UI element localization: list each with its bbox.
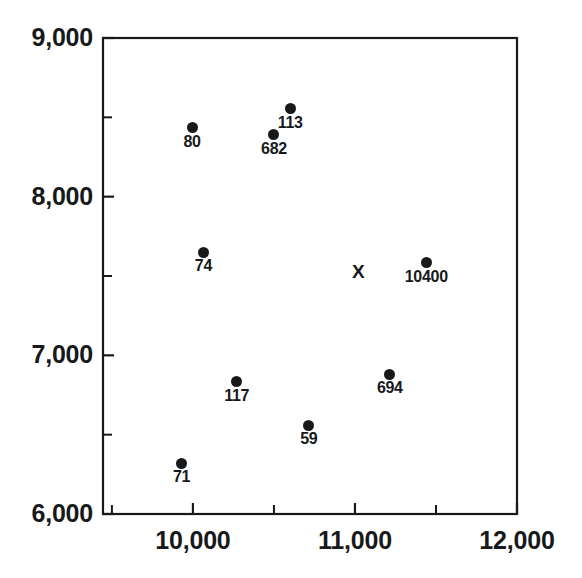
data-point-marker — [285, 103, 296, 114]
data-point-marker — [176, 458, 187, 469]
data-point-label: 682 — [214, 140, 334, 158]
data-point-label: 10400 — [366, 268, 486, 286]
y-tick-label-6000: 6,000 — [31, 499, 93, 528]
data-point-marker — [303, 420, 314, 431]
plot-canvas — [0, 0, 582, 578]
data-point-label: 74 — [143, 257, 263, 275]
y-tick-label-9000: 9,000 — [31, 23, 93, 52]
data-point-marker — [187, 122, 198, 133]
x-tick-label-10000: 10,000 — [123, 526, 263, 555]
data-point-marker — [421, 257, 432, 268]
data-point-label: 71 — [122, 468, 242, 486]
data-point-marker — [198, 247, 209, 258]
y-tick-label-8000: 8,000 — [31, 182, 93, 211]
data-point-label: 694 — [330, 379, 450, 397]
data-point-label: 59 — [249, 430, 369, 448]
data-point-marker-x: X — [352, 262, 365, 281]
y-tick-label-7000: 7,000 — [31, 340, 93, 369]
data-point-label: 113 — [230, 114, 350, 132]
x-tick-label-11000: 11,000 — [285, 526, 425, 555]
data-point-label: 117 — [177, 387, 297, 405]
scatter-plot-figure: 6,0007,0008,0009,000 10,00011,00012,000 … — [0, 0, 582, 578]
x-tick-label-12000: 12,000 — [447, 526, 582, 555]
